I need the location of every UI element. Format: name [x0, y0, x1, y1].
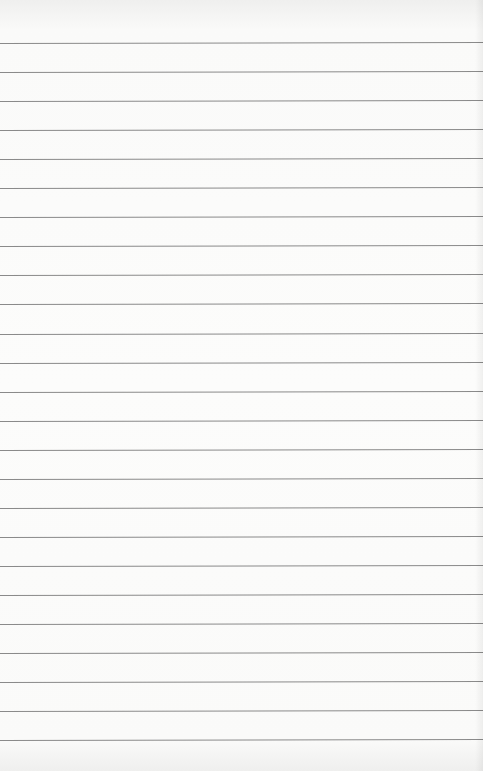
ruled-line [0, 594, 483, 596]
ruled-line [0, 362, 483, 364]
ruled-line [0, 391, 483, 393]
ruled-line [0, 623, 483, 625]
ruled-line [0, 129, 483, 131]
ruled-line [0, 565, 483, 567]
ruled-line [0, 710, 483, 712]
ruled-line [0, 71, 483, 73]
ruled-line [0, 100, 483, 102]
ruled-line [0, 739, 483, 741]
ruled-line [0, 507, 483, 509]
ruled-line [0, 158, 483, 160]
ruled-line [0, 420, 483, 422]
ruled-line [0, 42, 483, 44]
ruled-line [0, 332, 483, 334]
ruled-line [0, 652, 483, 654]
ruled-line [0, 245, 483, 247]
ruled-line [0, 478, 483, 480]
ruled-line [0, 536, 483, 538]
lined-paper-sheet [0, 0, 483, 771]
ruled-line [0, 449, 483, 451]
ruled-line [0, 303, 483, 305]
ruled-line [0, 681, 483, 683]
ruled-line [0, 274, 483, 276]
ruled-line [0, 187, 483, 189]
ruled-line [0, 216, 483, 218]
